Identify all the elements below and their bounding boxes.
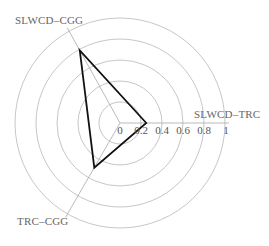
r-tick-0.4: 0.4 xyxy=(155,124,169,136)
radar-chart xyxy=(0,0,269,246)
axis-label-slwcd-trc: SLWCD–TRC xyxy=(194,108,260,120)
axis-line xyxy=(66,123,121,217)
r-tick-0: 0 xyxy=(117,124,123,136)
r-tick-0.2: 0.2 xyxy=(134,124,148,136)
axis-line xyxy=(67,28,120,123)
axis-label-slwcd-cgg: SLWCD–CGG xyxy=(15,14,83,26)
r-tick-0.6: 0.6 xyxy=(176,124,190,136)
radar-axes xyxy=(66,28,230,218)
r-tick-1: 1 xyxy=(223,124,229,136)
r-tick-0.8: 0.8 xyxy=(197,124,211,136)
axis-label-trc-cgg: TRC–CGG xyxy=(17,215,69,227)
